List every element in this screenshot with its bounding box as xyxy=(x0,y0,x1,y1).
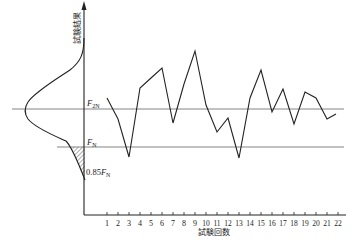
y-axis-arrow-icon xyxy=(82,1,87,10)
x-tick-label: 1 xyxy=(105,219,109,228)
x-tick-label: 16 xyxy=(268,219,276,228)
f2n-label: F2N xyxy=(86,98,100,109)
x-tick-label: 8 xyxy=(182,219,186,228)
x-tick-label: 9 xyxy=(193,219,197,228)
x-tick-label: 11 xyxy=(213,219,220,228)
x-tick-label: 20 xyxy=(312,219,320,228)
x-tick-label: 21 xyxy=(323,219,331,228)
x-tick-label: 6 xyxy=(160,219,164,228)
chart: 12345678910111213141516171819202122 試験結果… xyxy=(0,0,359,247)
test-results-line xyxy=(107,51,336,158)
x-tick-label: 22 xyxy=(334,219,342,228)
x-tick-label: 14 xyxy=(246,219,254,228)
x-tick-label: 2 xyxy=(116,219,120,228)
low-threshold-label: 0.85FN xyxy=(86,167,111,178)
x-tick-label: 18 xyxy=(290,219,298,228)
x-tick-label: 15 xyxy=(257,219,265,228)
x-tick-label: 12 xyxy=(224,219,232,228)
x-tick-label: 3 xyxy=(127,219,131,228)
x-tick-label: 13 xyxy=(235,219,243,228)
x-tick-label: 10 xyxy=(202,219,210,228)
x-axis-tick-labels: 12345678910111213141516171819202122 xyxy=(105,219,342,228)
x-tick-label: 17 xyxy=(279,219,287,228)
fn-label: FN xyxy=(86,137,97,148)
x-tick-label: 7 xyxy=(171,219,175,228)
x-tick-label: 5 xyxy=(149,219,153,228)
x-tick-label: 19 xyxy=(301,219,309,228)
x-axis-label: 試験回数 xyxy=(198,227,230,237)
y-axis-label: 試験結果 xyxy=(72,12,82,44)
x-tick-label: 4 xyxy=(138,219,142,228)
